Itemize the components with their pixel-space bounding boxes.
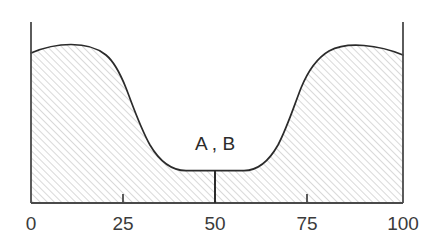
x-tick-label-25: 25: [112, 213, 133, 234]
annotation-group: A , B: [195, 133, 235, 154]
shaded-area-group: [31, 45, 403, 204]
shaded-area-left-lobe: [31, 45, 215, 204]
point-label-a-b: A , B: [195, 133, 235, 154]
x-tick-label-100: 100: [387, 213, 419, 234]
area-chart: 0 25 50 75 100 A , B: [0, 0, 425, 243]
figure-container: 0 25 50 75 100 A , B: [0, 0, 425, 243]
x-tick-label-0: 0: [26, 213, 37, 234]
x-tick-label-50: 50: [204, 213, 225, 234]
x-tick-label-75: 75: [296, 213, 317, 234]
x-axis-tick-labels: 0 25 50 75 100: [26, 213, 419, 234]
shaded-area-right-lobe: [215, 45, 403, 203]
